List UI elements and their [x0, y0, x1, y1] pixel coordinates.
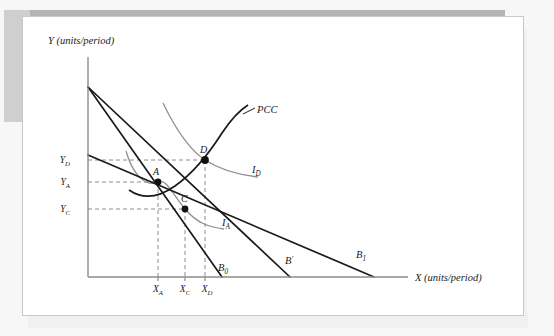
x-tick-label-1: XC: [179, 284, 191, 296]
point-marker-A: [155, 179, 162, 186]
y-axis-title: Y (units/period): [48, 35, 115, 47]
y-tick-label-1: YA: [61, 177, 71, 189]
point-label-D: D: [199, 144, 208, 155]
budget-sub-B1: 1: [362, 255, 366, 263]
y-tick-sub-0: D: [64, 160, 70, 167]
indifference-curves: [126, 103, 258, 229]
point-label-C: C: [181, 193, 188, 204]
projection-lines: [88, 160, 205, 277]
axes: [88, 57, 408, 277]
budget-sub-B0: 0: [224, 268, 228, 276]
point-marker-C: [182, 206, 189, 213]
y-tick-sub-2: C: [65, 209, 70, 216]
budget-label-B1: B1: [356, 249, 366, 263]
indifference-sub-IA: A: [225, 223, 231, 231]
indifference-sub-ID: D: [255, 170, 262, 178]
screenshot-root: Y (units/period) X (units/period) YD YA …: [0, 0, 554, 336]
leader-pcc: [243, 108, 255, 114]
x-tick-sub-0: A: [158, 289, 164, 296]
y-tick-label-0: YD: [60, 155, 70, 167]
indifference-label-ID: ID: [251, 164, 262, 178]
x-tick-sub-1: C: [186, 289, 191, 296]
point-label-A: A: [152, 166, 160, 177]
pcc-label: PCC: [256, 104, 278, 115]
pcc-diagram: Y (units/period) X (units/period) YD YA …: [0, 0, 554, 336]
x-axis-title: X (units/period): [414, 272, 482, 284]
x-tick-label-0: XA: [152, 284, 164, 296]
budget-sub-Bprime: ′: [291, 256, 293, 264]
label-leaders: [243, 108, 255, 114]
figure-container: Y (units/period) X (units/period) YD YA …: [0, 0, 554, 336]
point-marker-D: [201, 156, 209, 164]
budget-line-B1: [88, 155, 374, 277]
x-tick-sub-2: D: [206, 289, 212, 296]
x-tick-label-2: XD: [201, 284, 213, 296]
y-tick-sub-1: A: [65, 182, 71, 189]
budget-label-Bprime: B′: [285, 255, 293, 266]
y-tick-label-2: YC: [60, 204, 70, 216]
